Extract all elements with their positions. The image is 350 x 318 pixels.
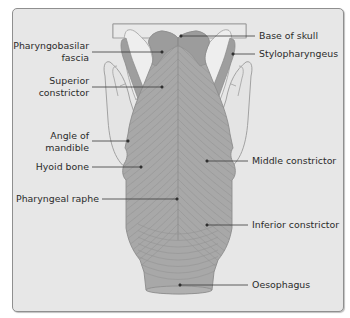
label-inferior-constrictor: Inferior constrictor (252, 219, 339, 231)
label-angle-of-mandible: Angle of mandible (45, 130, 89, 153)
leader-dot (161, 51, 163, 53)
oesophagus-opening (146, 286, 212, 294)
leader-dot (206, 160, 208, 162)
leader-dot (232, 53, 234, 55)
leader-dot (127, 140, 129, 142)
label-line: Base of skull (259, 30, 318, 42)
label-stylopharyngeus: Stylopharyngeus (259, 48, 338, 60)
label-line: Stylopharyngeus (259, 48, 338, 60)
leader-dot (176, 198, 178, 200)
label-hyoid-bone: Hyoid bone (36, 161, 89, 173)
label-oesophagus: Oesophagus (252, 279, 310, 291)
label-pharyngobasilar-fascia: Pharyngobasilar fascia (13, 40, 89, 63)
leader-dot (179, 284, 181, 286)
leader-dot (140, 166, 142, 168)
leader-dot (180, 35, 182, 37)
label-line: Pharyngobasilar (13, 40, 89, 52)
label-base-of-skull: Base of skull (259, 30, 318, 42)
label-pharyngeal-raphe: Pharyngeal raphe (16, 193, 99, 205)
leader-dot (206, 224, 208, 226)
label-superior-constrictor: Superior constrictor (39, 75, 89, 98)
label-middle-constrictor: Middle constrictor (252, 155, 336, 167)
label-line: fascia (13, 52, 89, 64)
label-line: Superior (39, 75, 89, 87)
label-line: Hyoid bone (36, 161, 89, 173)
label-line: Inferior constrictor (252, 219, 339, 231)
leader-dot (161, 86, 163, 88)
label-line: Pharyngeal raphe (16, 193, 99, 205)
label-line: Oesophagus (252, 279, 310, 291)
label-line: constrictor (39, 87, 89, 99)
label-line: mandible (45, 142, 89, 154)
label-line: Middle constrictor (252, 155, 336, 167)
label-line: Angle of (45, 130, 89, 142)
